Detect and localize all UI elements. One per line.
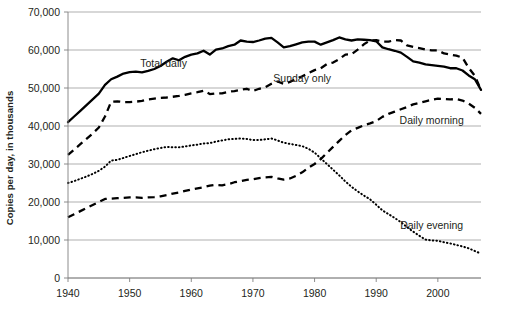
y-tick-marks-group bbox=[64, 12, 68, 278]
y-tick-label: 0 bbox=[54, 272, 60, 284]
y-tick-label: 20,000 bbox=[28, 196, 60, 208]
x-tick-labels-group: 1940195019601970198019902000 bbox=[56, 287, 449, 299]
y-tick-label: 60,000 bbox=[28, 44, 60, 56]
y-axis-title: Copies per day, in thousands bbox=[4, 91, 15, 226]
newspaper-circulation-chart: 010,00020,00030,00040,00050,00060,00070,… bbox=[0, 0, 509, 315]
series-line-daily-evening bbox=[68, 139, 481, 254]
y-tick-labels-group: 010,00020,00030,00040,00050,00060,00070,… bbox=[28, 6, 60, 284]
series-line-sunday-only bbox=[68, 40, 481, 155]
x-tick-label: 1980 bbox=[303, 287, 327, 299]
y-tick-label: 70,000 bbox=[28, 6, 60, 18]
series-annotation-daily-morning: Daily morning bbox=[400, 114, 464, 126]
series-annotation-daily-evening: Daily evening bbox=[400, 219, 463, 231]
y-tick-label: 50,000 bbox=[28, 82, 60, 94]
x-tick-label: 1990 bbox=[365, 287, 389, 299]
chart-canvas: 010,00020,00030,00040,00050,00060,00070,… bbox=[0, 0, 509, 315]
x-tick-label: 1970 bbox=[241, 287, 265, 299]
series-annotations-group: Total dailySunday onlyDaily morningDaily… bbox=[140, 57, 464, 231]
y-tick-label: 30,000 bbox=[28, 158, 60, 170]
x-tick-marks-group bbox=[68, 278, 438, 282]
series-annotation-total-daily: Total daily bbox=[140, 57, 187, 69]
y-tick-label: 40,000 bbox=[28, 120, 60, 132]
axis-lines-group bbox=[68, 12, 481, 278]
x-tick-label: 2000 bbox=[426, 287, 450, 299]
x-tick-label: 1950 bbox=[118, 287, 142, 299]
gridlines-group bbox=[68, 12, 481, 278]
y-tick-label: 10,000 bbox=[28, 234, 60, 246]
x-tick-label: 1940 bbox=[56, 287, 80, 299]
x-tick-label: 1960 bbox=[180, 287, 204, 299]
series-annotation-sunday-only: Sunday only bbox=[273, 72, 332, 84]
